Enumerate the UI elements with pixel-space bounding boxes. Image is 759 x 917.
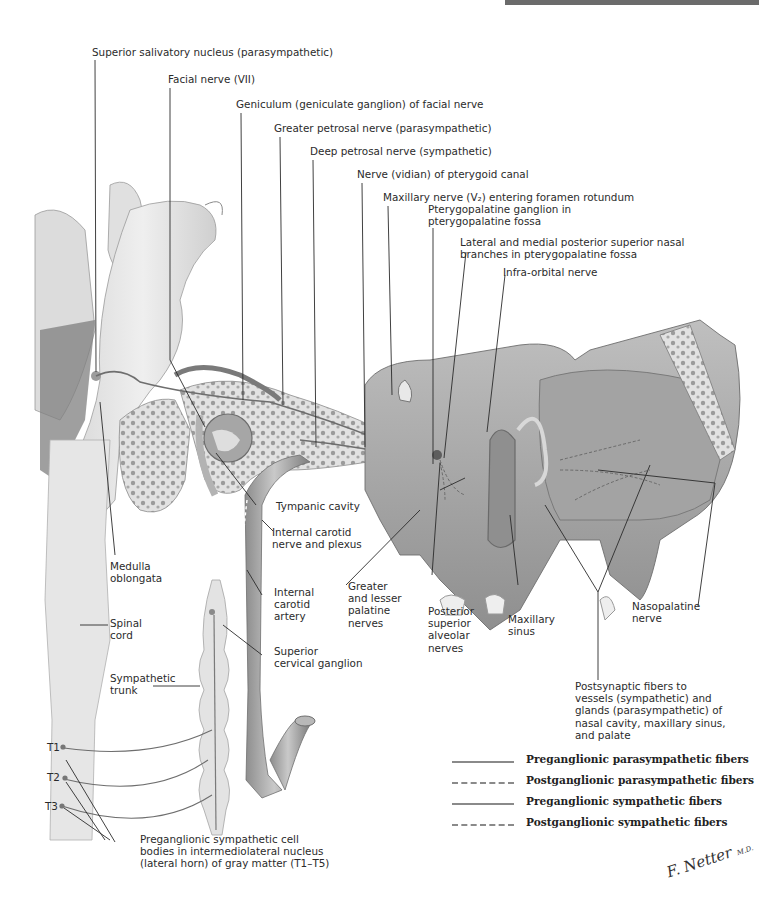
label-infraorbital-nerve: Infra-orbital nerve <box>503 266 597 278</box>
label-facial-nerve: Facial nerve (VII) <box>168 73 255 85</box>
label-t2: T2 <box>47 771 60 783</box>
legend-item: Postganglionic sympathetic fibers <box>452 815 752 836</box>
legend: Preganglionic parasympathetic fibers Pos… <box>452 752 752 836</box>
label-maxillary-sinus: Maxillary sinus <box>508 613 555 637</box>
label-postsynaptic-fibers: Postsynaptic fibers to vessels (sympathe… <box>575 680 725 741</box>
label-tympanic-cavity: Tympanic cavity <box>276 500 360 512</box>
label-maxillary-nerve: Maxillary nerve (V₂) entering foramen ro… <box>383 191 634 203</box>
solid-line-swatch <box>452 761 514 763</box>
label-greater-petrosal-nerve: Greater petrosal nerve (parasympathetic) <box>274 122 492 134</box>
label-internal-carotid-artery: Internal carotid artery <box>274 586 314 623</box>
label-geniculum: Geniculum (geniculate ganglion) of facia… <box>236 98 483 110</box>
label-nasal-branches: Lateral and medial posterior superior na… <box>460 236 684 260</box>
label-preganglionic-cell-bodies: Preganglionic sympathetic cell bodies in… <box>140 833 329 870</box>
label-superior-cervical-ganglion: Superior cervical ganglion <box>274 645 363 669</box>
label-t1: T1 <box>47 741 60 753</box>
dashed-line-swatch <box>452 824 514 826</box>
legend-item: Preganglionic sympathetic fibers <box>452 794 752 815</box>
legend-label: Postganglionic parasympathetic fibers <box>526 774 754 786</box>
label-internal-carotid-nerve: Internal carotid nerve and plexus <box>272 526 362 550</box>
label-greater-lesser-palatine-nerves: Greater and lesser palatine nerves <box>348 580 402 629</box>
label-medulla-oblongata: Medulla oblongata <box>110 560 162 584</box>
label-posterior-superior-alveolar-nerves: Posterior superior alveolar nerves <box>428 605 474 654</box>
nasal-cavity-region <box>365 320 740 630</box>
solid-line-swatch <box>452 803 514 805</box>
label-superior-salivatory-nucleus: Superior salivatory nucleus (parasympath… <box>92 46 333 58</box>
label-deep-petrosal-nerve: Deep petrosal nerve (sympathetic) <box>310 145 492 157</box>
legend-item: Preganglionic parasympathetic fibers <box>452 752 752 773</box>
brainstem <box>35 182 222 840</box>
label-vidian-nerve: Nerve (vidian) of pterygoid canal <box>357 168 529 180</box>
legend-label: Preganglionic parasympathetic fibers <box>526 753 749 765</box>
label-sympathetic-trunk: Sympathetic trunk <box>110 672 176 696</box>
legend-label: Preganglionic sympathetic fibers <box>526 795 722 807</box>
label-nasopalatine-nerve: Nasopalatine nerve <box>632 600 700 624</box>
label-spinal-cord: Spinal cord <box>110 617 142 641</box>
dashed-line-swatch <box>452 782 514 784</box>
label-pterygopalatine-ganglion: Pterygopalatine ganglion in pterygopalat… <box>428 203 571 227</box>
legend-item: Postganglionic parasympathetic fibers <box>452 773 752 794</box>
legend-label: Postganglionic sympathetic fibers <box>526 816 727 828</box>
label-t3: T3 <box>45 800 58 812</box>
